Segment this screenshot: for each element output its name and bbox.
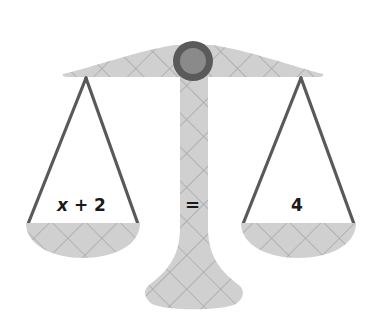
plus-operator: + <box>74 195 88 215</box>
balance-scale-graphic <box>0 0 378 332</box>
right-pan <box>241 223 356 258</box>
left-pan <box>26 223 140 258</box>
left-pan-expression: x + 2 <box>57 197 106 214</box>
variable-x: x <box>57 195 68 215</box>
right-pan-expression: 4 <box>291 197 303 214</box>
constant-value: 2 <box>94 195 106 215</box>
scale-stand <box>145 70 243 309</box>
balance-scale-diagram: x + 2 = 4 <box>0 0 378 332</box>
equals-sign: = <box>185 196 200 214</box>
pivot-knob <box>173 41 213 81</box>
